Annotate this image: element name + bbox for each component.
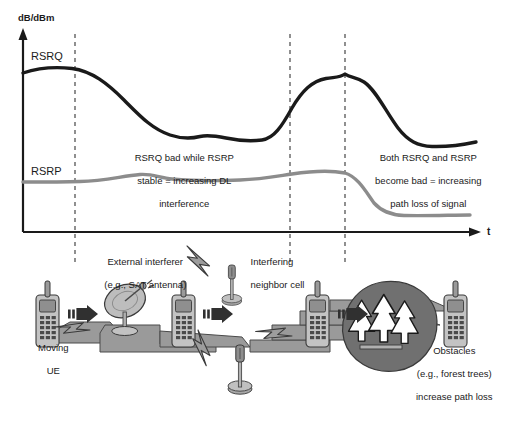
neighbor-cell-line2: neighbor cell xyxy=(251,279,305,290)
label-interfering-neighbor-cell: Interfering neighbor cell xyxy=(240,244,332,302)
figure-root: dB/dBm t RSRQ RSRP RSRQ bad while RSRP s… xyxy=(0,0,506,421)
movement-arrow-1 xyxy=(68,305,98,323)
serving-base-station xyxy=(228,345,252,394)
obstacles-line3: increase path loss xyxy=(416,391,493,402)
label-obstacles: Obstacles (e.g., forest trees) increase … xyxy=(392,333,506,414)
external-interferer-line1: External interferer xyxy=(108,256,184,267)
moving-ue-line2: UE xyxy=(47,365,60,376)
neighbor-cell-line1: Interfering xyxy=(251,256,294,267)
obstacles-line1: Obstacles xyxy=(433,345,475,356)
moving-ue-line1: Moving xyxy=(38,342,69,353)
label-external-interferer: External interferer (e.g., SAT antenna) xyxy=(78,244,202,302)
interfering-neighbor-cell-antenna xyxy=(222,265,242,305)
obstacles-line2: (e.g., forest trees) xyxy=(417,368,492,379)
label-moving-ue: Moving UE xyxy=(20,330,76,388)
movement-arrow-2 xyxy=(203,305,233,323)
external-interferer-line2: (e.g., SAT antenna) xyxy=(104,279,186,290)
